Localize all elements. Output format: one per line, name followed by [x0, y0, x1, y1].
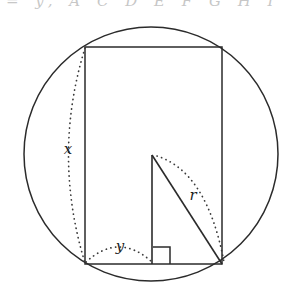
- r-measure-dotted-arc: [157, 156, 224, 262]
- circumscribed-circle: [24, 27, 278, 281]
- right-angle-marker-icon: [153, 247, 170, 264]
- label-y: y: [116, 239, 124, 254]
- geometry-figure: = y, A C D E F G H I x y r: [0, 0, 297, 296]
- label-x: x: [64, 142, 72, 157]
- figure-canvas: [0, 0, 297, 296]
- label-r: r: [189, 188, 196, 203]
